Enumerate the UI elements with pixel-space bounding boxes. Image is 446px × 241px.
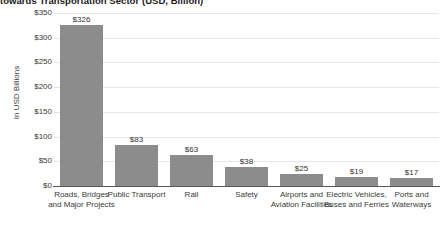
bar[interactable] bbox=[335, 177, 378, 186]
x-axis-category-labels: Roads, Bridges and Major ProjectsPublic … bbox=[54, 190, 439, 241]
y-tick-label: $200 bbox=[4, 82, 52, 91]
bar[interactable] bbox=[390, 178, 433, 186]
bar-slot: $19 bbox=[335, 13, 378, 186]
y-tick-label: $100 bbox=[4, 132, 52, 141]
y-tick-label: $0 bbox=[4, 181, 52, 190]
y-tick-label: $250 bbox=[4, 57, 52, 66]
bar[interactable] bbox=[170, 155, 213, 186]
bar-slot: $83 bbox=[115, 13, 158, 186]
bar-slot: $326 bbox=[60, 13, 103, 186]
bar-chart: towards Transportation Sector (USD, Bill… bbox=[0, 0, 446, 241]
bar-value-label: $63 bbox=[158, 145, 225, 154]
bar-value-label: $83 bbox=[103, 135, 170, 144]
bar-value-label: $326 bbox=[48, 15, 115, 24]
x-axis-line bbox=[53, 186, 440, 187]
bar-slot: $17 bbox=[390, 13, 433, 186]
bar-value-label: $17 bbox=[378, 168, 445, 177]
bar-slot: $38 bbox=[225, 13, 268, 186]
plot-area: $326$83$63$38$25$19$17 bbox=[54, 13, 439, 186]
bar-slot: $25 bbox=[280, 13, 323, 186]
bar[interactable] bbox=[280, 174, 323, 186]
bar[interactable] bbox=[60, 25, 103, 186]
bar[interactable] bbox=[225, 167, 268, 186]
y-tick-label: $50 bbox=[4, 156, 52, 165]
y-tick-label: $300 bbox=[4, 33, 52, 42]
category-label: Ports and Waterways bbox=[378, 190, 445, 209]
bar[interactable] bbox=[115, 145, 158, 186]
y-tick-label: $150 bbox=[4, 107, 52, 116]
y-axis-tick-labels: $350$300$250$200$150$100$50$0 bbox=[0, 13, 52, 186]
bar-slot: $63 bbox=[170, 13, 213, 186]
chart-title: towards Transportation Sector (USD, Bill… bbox=[0, 0, 446, 6]
y-tick-label: $350 bbox=[4, 8, 52, 17]
